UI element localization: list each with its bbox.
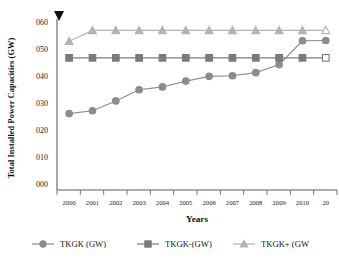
series-line: [69, 40, 326, 113]
data-point-marker: [89, 55, 96, 62]
down-triangle-marker-icon: [54, 11, 64, 21]
x-tick-label: 2000: [63, 199, 77, 206]
data-point-marker: [159, 55, 166, 62]
data-point-marker: [299, 37, 306, 44]
legend-item-1[interactable]: TKGK (GW): [32, 239, 106, 249]
x-tick-label: 20: [323, 199, 330, 206]
legend-item-2[interactable]: TKGK-(GW): [137, 239, 212, 249]
data-point-marker: [206, 55, 213, 62]
data-point-marker: [299, 55, 306, 62]
x-tick-label: 2002: [109, 199, 122, 206]
data-point-marker: [229, 72, 236, 79]
data-point-marker: [159, 84, 166, 91]
data-point-marker: [229, 55, 236, 62]
circle-marker-icon: [40, 241, 46, 247]
data-point-marker: [89, 107, 96, 114]
x-tick-label: 2001: [86, 199, 99, 206]
x-tick-label: 2008: [249, 199, 263, 206]
x-axis-title: Years: [186, 214, 208, 224]
data-point-marker: [183, 78, 190, 85]
y-axis-tick-labels: 060 050 040 030 020 010 000: [36, 18, 48, 189]
y-axis-title: Total Installed Power Capacities (GW): [7, 38, 16, 179]
y-tick-label: 030: [36, 99, 48, 108]
series-layer: [65, 27, 329, 117]
y-tick-label: 050: [36, 45, 48, 54]
data-point-marker: [323, 55, 330, 62]
x-tick-label: 2004: [156, 199, 170, 206]
data-point-marker: [276, 61, 283, 68]
y-tick-label: 020: [36, 126, 48, 135]
x-tick-label: 2003: [133, 199, 147, 206]
data-point-marker: [113, 98, 120, 105]
y-tick-label: 040: [36, 72, 48, 81]
square-marker-icon: [145, 241, 151, 247]
data-point-marker: [323, 37, 330, 44]
x-tick-label: 2007: [226, 199, 240, 206]
legend-label: TKGK-(GW): [165, 239, 212, 249]
data-point-marker: [65, 37, 73, 44]
x-tick-label: 2009: [273, 199, 287, 206]
series-3: [65, 27, 329, 45]
x-axis-ticks: 2000200120022003200420052006200720082009…: [57, 190, 337, 206]
data-point-marker: [206, 73, 213, 80]
data-point-marker: [66, 110, 73, 117]
data-point-marker: [253, 55, 260, 62]
legend-label: TKGK (GW): [60, 239, 106, 249]
data-point-marker: [136, 55, 143, 62]
data-point-marker: [276, 55, 283, 62]
y-tick-label: 060: [36, 18, 48, 27]
x-tick-label: 2006: [203, 199, 217, 206]
series-2: [66, 55, 329, 62]
y-tick-label: 010: [36, 153, 48, 162]
line-chart: Total Installed Power Capacities (GW) 06…: [0, 0, 339, 262]
series-line: [69, 30, 326, 41]
legend-item-3[interactable]: TKGK+ (GW: [233, 239, 310, 249]
data-point-marker: [66, 55, 73, 62]
chart-legend: TKGK (GW)TKGK-(GW)TKGK+ (GW: [32, 239, 310, 249]
data-point-marker: [113, 55, 120, 62]
x-tick-label: 2005: [179, 199, 193, 206]
data-point-marker: [136, 86, 143, 93]
chart-container: Total Installed Power Capacities (GW) 06…: [0, 0, 339, 262]
data-point-marker: [183, 55, 190, 62]
series-1: [66, 37, 329, 117]
data-point-marker: [253, 69, 260, 76]
legend-label: TKGK+ (GW: [261, 239, 310, 249]
x-tick-label: 2010: [296, 199, 310, 206]
y-tick-label: 000: [36, 180, 48, 189]
